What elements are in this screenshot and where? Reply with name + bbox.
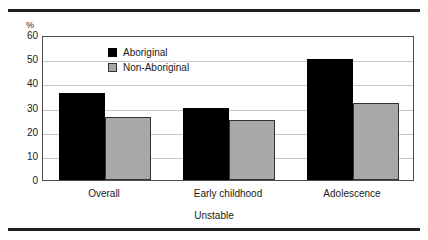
bar-aboriginal-adolescence [307,59,353,180]
y-axis-tick-label: 0 [8,176,38,186]
gridline [43,85,413,86]
x-axis-title: Unstable [0,210,428,221]
figure-bottom-rule [8,228,420,231]
x-axis-tick-label: Overall [88,188,120,199]
legend-item-label: Aboriginal [123,47,167,58]
bar-aboriginal-overall [59,93,105,180]
gridline [43,61,413,62]
figure-top-rule [8,9,420,12]
legend-item-non-aboriginal: Non-Aboriginal [108,60,189,75]
legend-item-aboriginal: Aboriginal [108,45,189,60]
black-square-swatch-icon [108,48,117,57]
chart-legend: Aboriginal Non-Aboriginal [108,45,189,75]
chart-figure: % 0102030405060 OverallEarly childhoodAd… [0,0,428,240]
y-axis-tick-label: 10 [8,152,38,162]
x-axis-tick-label: Adolescence [323,188,380,199]
y-axis-tick-label: 40 [8,79,38,89]
y-axis-tick-label: 60 [8,31,38,41]
bar-non-aboriginal-adolescence [353,103,399,180]
bar-non-aboriginal-early-childhood [229,120,275,180]
y-axis-unit-label: % [26,20,34,30]
legend-item-label: Non-Aboriginal [123,62,189,73]
bar-non-aboriginal-overall [105,117,151,180]
y-axis-tick-label: 20 [8,128,38,138]
gray-square-swatch-icon [108,63,117,72]
y-axis-tick-label: 30 [8,104,38,114]
y-axis-tick-label: 50 [8,55,38,65]
bar-aboriginal-early-childhood [183,108,229,181]
x-axis-tick-label: Early childhood [194,188,262,199]
plot-area [42,36,414,181]
